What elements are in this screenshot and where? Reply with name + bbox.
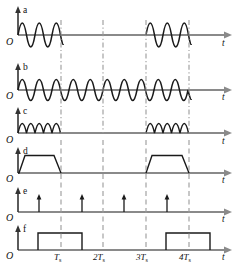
row-f bbox=[15, 225, 232, 254]
row-f-pulse-1 bbox=[38, 233, 82, 250]
row-c-burst-2 bbox=[146, 124, 189, 134]
time-axis-label-e: t bbox=[222, 214, 225, 224]
tick-label-4Ts: 4Ts bbox=[179, 252, 192, 262]
origin-label-a: O bbox=[6, 36, 13, 47]
row-label-f: f bbox=[23, 224, 27, 234]
row-e-value-arrowhead bbox=[15, 187, 21, 194]
row-e-axis-arrowhead bbox=[224, 209, 232, 216]
row-f-pulse-2 bbox=[166, 233, 210, 250]
row-b bbox=[15, 63, 232, 101]
row-label-a: a bbox=[23, 5, 28, 15]
time-axis-label-b: t bbox=[222, 92, 225, 102]
row-label-e: e bbox=[23, 186, 27, 196]
waveform-figure: a b c d e f O O O O O O t t t t t t Ts 2… bbox=[0, 0, 237, 262]
row-e bbox=[15, 187, 232, 216]
waveform-svg: a b c d e f O O O O O O t t t t t t Ts 2… bbox=[0, 0, 237, 262]
row-c-value-arrowhead bbox=[15, 107, 21, 114]
row-e-impulse-4 bbox=[165, 194, 170, 212]
time-axis-label-f: t bbox=[222, 252, 225, 262]
row-a-value-arrowhead bbox=[15, 6, 21, 13]
row-d bbox=[15, 147, 232, 177]
origin-label-d: O bbox=[6, 173, 13, 184]
row-label-c: c bbox=[23, 106, 27, 116]
origin-label-b: O bbox=[6, 90, 13, 101]
time-axis-label-a: t bbox=[222, 38, 225, 48]
row-a-axis-arrowhead bbox=[224, 32, 232, 39]
tick-label-3Ts: 3Ts bbox=[135, 252, 149, 262]
origin-label-c: O bbox=[6, 134, 13, 145]
tick-label-Ts: Ts bbox=[54, 252, 62, 262]
origin-label-f: O bbox=[6, 250, 13, 261]
row-d-axis-arrowhead bbox=[224, 170, 232, 177]
row-d-pulse-1 bbox=[18, 156, 61, 174]
row-e-impulse-2 bbox=[80, 194, 85, 212]
row-label-d: d bbox=[23, 146, 28, 156]
time-axis-label-c: t bbox=[222, 136, 225, 146]
row-b-axis-arrowhead bbox=[224, 87, 232, 94]
origin-label-e: O bbox=[6, 212, 13, 223]
row-c-axis-arrowhead bbox=[224, 130, 232, 137]
time-tick-labels: Ts 2Ts 3Ts 4Ts bbox=[54, 252, 192, 262]
row-f-value-arrowhead bbox=[15, 225, 21, 232]
row-e-impulse-3 bbox=[122, 194, 127, 212]
guide-lines-upper bbox=[61, 20, 189, 133]
time-axis-label-d: t bbox=[222, 175, 225, 185]
row-d-pulse-2 bbox=[146, 156, 189, 174]
row-b-value-arrowhead bbox=[15, 63, 21, 70]
row-c-burst-1 bbox=[18, 124, 61, 134]
row-a bbox=[15, 6, 232, 47]
tick-label-2Ts: 2Ts bbox=[93, 252, 106, 262]
row-e-impulse-1 bbox=[37, 194, 42, 212]
row-f-axis-arrowhead bbox=[224, 247, 232, 254]
row-c bbox=[15, 107, 232, 137]
row-d-value-arrowhead bbox=[15, 147, 21, 154]
row-label-b: b bbox=[23, 62, 28, 72]
